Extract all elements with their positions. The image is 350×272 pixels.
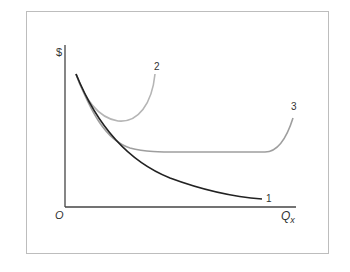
curve-2-label: 2 [154, 62, 160, 72]
curve-3 [76, 74, 293, 152]
plot-area [0, 0, 350, 272]
curve-3-label: 3 [291, 102, 297, 112]
curve-1-label: 1 [266, 194, 272, 204]
origin-label: O [55, 210, 64, 221]
x-axis-label: Qx [281, 210, 295, 225]
curve-2 [76, 74, 155, 121]
y-axis-label: $ [56, 47, 62, 58]
x-axis-label-sub: x [290, 215, 295, 225]
x-axis-label-main: Q [281, 209, 290, 223]
curve-1 [76, 74, 262, 199]
